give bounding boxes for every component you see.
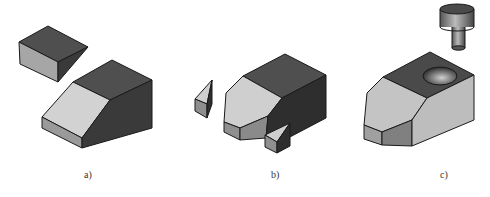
label-b: b) xyxy=(271,169,279,180)
wedge-left-b xyxy=(195,80,212,118)
figure-a xyxy=(19,26,152,148)
bore-hole xyxy=(423,67,457,85)
block-part-b xyxy=(224,54,326,140)
isometric-parts-diagram xyxy=(0,0,490,197)
block-part-c xyxy=(364,52,474,146)
label-c: c) xyxy=(440,169,448,180)
pin-part-c xyxy=(440,4,474,50)
label-a: a) xyxy=(84,169,92,180)
figure-c xyxy=(364,4,474,146)
figure-canvas: a) b) c) xyxy=(0,0,490,197)
wedge-part-a xyxy=(19,26,88,82)
figure-b xyxy=(195,54,326,153)
